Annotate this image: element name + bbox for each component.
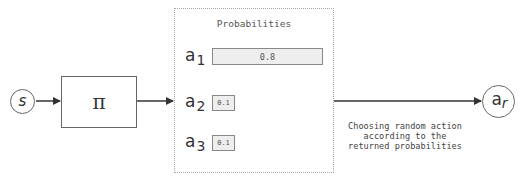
probability-value-a1: 0.8 xyxy=(260,52,275,62)
policy-node-label: π xyxy=(92,90,105,114)
probability-value-a2: 0.1 xyxy=(217,99,230,107)
probabilities-title: Probabilities xyxy=(174,18,334,29)
action-label-a2: a2 xyxy=(185,93,205,113)
state-node-label: s xyxy=(19,92,27,110)
action-label-a3: a3 xyxy=(185,133,205,153)
probability-bar-a3: 0.1 xyxy=(212,135,235,151)
action-label-a1: a1 xyxy=(185,47,205,67)
policy-node: π xyxy=(61,76,137,128)
edge-caption-line-1: Choosing random action xyxy=(330,121,480,131)
probability-bar-a1: 0.8 xyxy=(212,48,323,65)
edge-caption-line-2: according to the xyxy=(330,131,480,141)
state-node: s xyxy=(10,89,35,114)
output-action-label: ar xyxy=(491,89,507,111)
output-action-node: ar xyxy=(482,85,515,118)
probability-bar-a2: 0.1 xyxy=(212,95,235,111)
edge-caption: Choosing random action according to the … xyxy=(330,121,480,151)
probability-value-a3: 0.1 xyxy=(217,139,230,147)
edge-caption-line-3: returned probabilities xyxy=(330,141,480,151)
